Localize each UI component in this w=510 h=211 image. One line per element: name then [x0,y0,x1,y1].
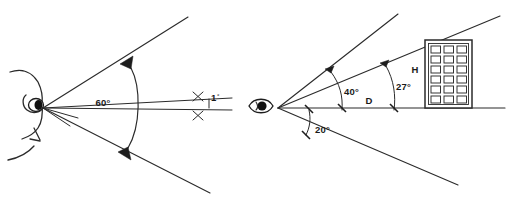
building-window [457,56,467,63]
building-window [444,66,454,73]
observer-eye [249,99,273,113]
building-window [431,46,441,53]
angle-1-degree-symbol: ° [217,93,220,99]
pupil-icon [35,100,43,110]
angle-20-label: 20° [315,124,330,135]
building-window [431,56,441,63]
height-H-label: H [411,64,418,75]
building-window [444,76,454,83]
eye-pupil-icon [257,101,266,110]
building-window [457,86,467,93]
building-window [431,96,441,103]
building-window [457,46,467,53]
angle-40-label: 40° [344,86,359,97]
building-window [431,86,441,93]
building-window [431,76,441,83]
building-window [444,96,454,103]
distance-D-label: D [365,95,372,106]
building-window [444,56,454,63]
building-window [444,46,454,53]
building-window [457,66,467,73]
building [425,40,472,108]
angle-60-label: 60° [96,97,111,108]
building-window [457,96,467,103]
visual-field-diagram: 60° 1 ° [0,0,510,211]
building-window [431,66,441,73]
figure-container: 60° 1 ° [0,0,510,211]
building-window [444,86,454,93]
angle-27-label: 27° [396,81,411,92]
building-window [457,76,467,83]
